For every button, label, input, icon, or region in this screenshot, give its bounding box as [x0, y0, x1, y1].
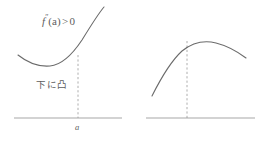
formula-argument: (a)	[48, 15, 61, 27]
convexity-figure: f′′(a)>0 下に凸 a f′′(a)<0 上に凸 a	[0, 0, 264, 141]
x-axis-tick-label-a: a	[75, 122, 79, 132]
curve-convex-down	[152, 42, 246, 96]
convexity-label-downward: 下に凸	[36, 77, 68, 91]
formula-second-derivative-positive: f′′(a)>0	[42, 13, 75, 27]
formula-comparison-value: 0	[69, 15, 75, 27]
panel-convex-down: f′′(a)<0 上に凸 a	[132, 0, 264, 141]
right-panel-graphic	[132, 0, 264, 141]
panel-convex-up: f′′(a)>0 下に凸 a	[0, 0, 132, 141]
